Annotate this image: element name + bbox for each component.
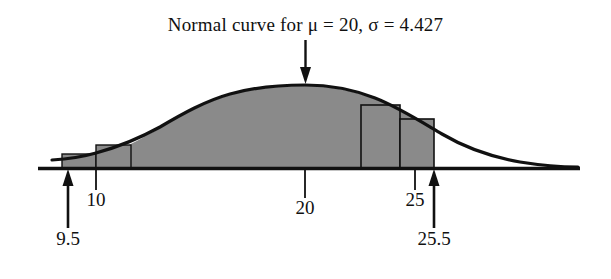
arrow-label-9-5: 9.5 [33,229,103,249]
axis-tick-label-25: 25 [385,190,445,210]
axis-tick-label-20: 20 [275,198,335,218]
pointer-arrow-25-5-head [429,169,440,186]
axis-ticks [96,170,415,198]
arrow-label-25-5: 25.5 [399,229,469,249]
histogram-bar-3 [361,105,400,168]
title-pointer-arrow [300,40,311,84]
pointer-arrow-9-5-head [63,169,74,186]
title-pointer-arrow-head [300,67,311,84]
normal-curve-figure: Normal curve for μ = 20, σ = 4.427 [0,0,611,279]
axis-tick-label-10: 10 [66,190,126,210]
figure-title: Normal curve for μ = 20, σ = 4.427 [0,14,611,36]
